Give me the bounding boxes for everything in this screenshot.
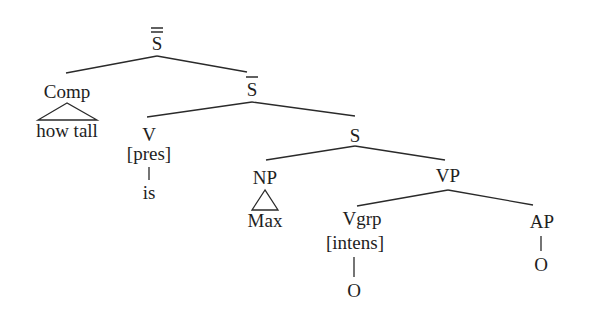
edge-root-comp bbox=[66, 56, 157, 73]
node-label-comp: Comp bbox=[44, 81, 90, 102]
edge-sbar-v bbox=[147, 102, 252, 117]
edge-root-sbar bbox=[157, 56, 247, 72]
node-sbar: S bbox=[246, 77, 258, 100]
node-label-v: V bbox=[142, 124, 156, 145]
edge-sbar-s bbox=[252, 102, 355, 116]
syntax-tree: S Comp how tall S V [pres] is S NP Max V… bbox=[0, 0, 589, 325]
feature-label-pres: [pres] bbox=[127, 143, 171, 164]
leaf-label-max: Max bbox=[248, 210, 283, 231]
leaf-label-is: is bbox=[143, 182, 156, 203]
leaf-label-ap-o: O bbox=[534, 254, 548, 275]
edge-vp-vgrp bbox=[357, 190, 448, 206]
leaf-label-how-tall: how tall bbox=[36, 120, 98, 141]
node-label-ap: AP bbox=[530, 211, 554, 232]
roof-triangle-comp bbox=[38, 103, 97, 120]
node-label-vgrp: Vgrp bbox=[342, 208, 381, 229]
node-root: S bbox=[151, 28, 163, 54]
node-label-vp: VP bbox=[436, 165, 460, 186]
edge-vp-ap bbox=[448, 190, 533, 205]
leaf-label-vgrp-o: O bbox=[347, 280, 361, 301]
node-label-sbar: S bbox=[247, 79, 258, 100]
roof-triangle-np bbox=[252, 190, 278, 210]
edge-s-vp bbox=[355, 146, 445, 160]
feature-label-intens: [intens] bbox=[326, 232, 384, 253]
node-label-root: S bbox=[152, 33, 163, 54]
edge-s-np bbox=[266, 146, 355, 160]
node-label-np: NP bbox=[253, 167, 277, 188]
node-label-s: S bbox=[350, 125, 361, 146]
